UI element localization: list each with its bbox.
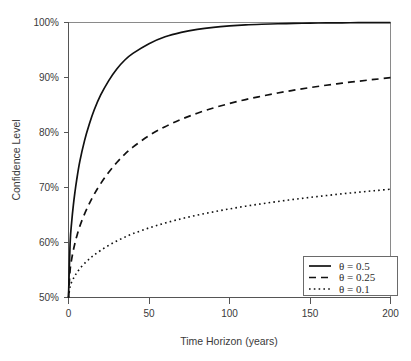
x-tick-label-100: 100 (221, 308, 238, 319)
y-tick-label-90: 90% (39, 72, 59, 83)
legend-label-theta-0-25: θ = 0.25 (339, 271, 376, 283)
y-tick-label-100: 100% (33, 17, 59, 28)
chart-figure: 50% 60% 70% 80% 90% 100% 0 50 100 150 20… (0, 0, 411, 361)
x-tick-label-50: 50 (143, 308, 155, 319)
x-tick-label-150: 150 (302, 308, 319, 319)
legend-label-theta-0-1: θ = 0.1 (339, 283, 370, 295)
y-tick-label-80: 80% (39, 127, 59, 138)
y-axis-title: Confidence Level (10, 119, 22, 200)
legend-label-theta-0-5: θ = 0.5 (339, 260, 370, 272)
chart-legend[interactable]: θ = 0.5 θ = 0.25 θ = 0.1 (304, 257, 398, 296)
confidence-level-chart: 50% 60% 70% 80% 90% 100% 0 50 100 150 20… (0, 0, 411, 361)
x-axis-title: Time Horizon (years) (180, 335, 278, 347)
x-tick-label-200: 200 (382, 308, 399, 319)
y-tick-label-60: 60% (39, 237, 59, 248)
y-tick-label-50: 50% (39, 292, 59, 303)
figure-background (0, 0, 411, 361)
y-tick-label-70: 70% (39, 182, 59, 193)
x-tick-label-0: 0 (66, 308, 72, 319)
